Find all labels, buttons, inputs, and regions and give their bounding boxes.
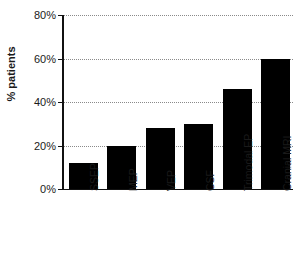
y-tick-label: 0% [40,183,56,195]
bar-chart: % patients 0%20%40%60%80% SSEPMEPVEPCSFT… [0,0,293,264]
y-tick-mark [58,189,64,190]
x-label-trimodal-ep: Trimodal EP [242,134,254,191]
y-tick-label: 40% [34,96,56,108]
x-label-ssep: SSEP [88,163,100,191]
x-label-cranial-mri: Cranial MRI [281,136,293,191]
y-tick-label: 60% [34,53,56,65]
y-tick-label: 80% [34,9,56,21]
y-axis-title: % patients [5,36,17,112]
x-label-vep: VEP [165,170,177,191]
x-label-csf: CSF [204,170,216,191]
x-axis-category-labels: SSEPMEPVEPCSFTrimodal EPCranial MRI [62,191,293,264]
x-label-mep: MEP [127,168,139,191]
y-tick-label: 20% [34,140,56,152]
